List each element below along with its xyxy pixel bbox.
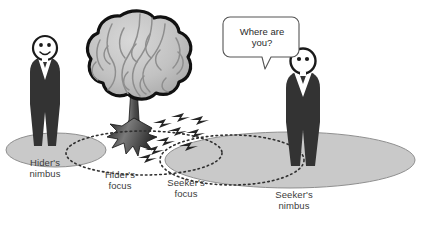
label-seeker-focus: Seeker's focus (152, 178, 220, 199)
label-hider-focus: Hider's focus (88, 170, 152, 191)
diagram-canvas: Where are you? Hider's nimbus Hider's fo… (0, 0, 425, 229)
hider-figure (30, 36, 60, 146)
label-hider-nimbus: Hider's nimbus (12, 158, 78, 179)
tree-roots (107, 118, 157, 156)
label-seeker-nimbus: Seeker's nimbus (252, 190, 336, 211)
speech-bubble-text: Where are you? (226, 26, 298, 49)
